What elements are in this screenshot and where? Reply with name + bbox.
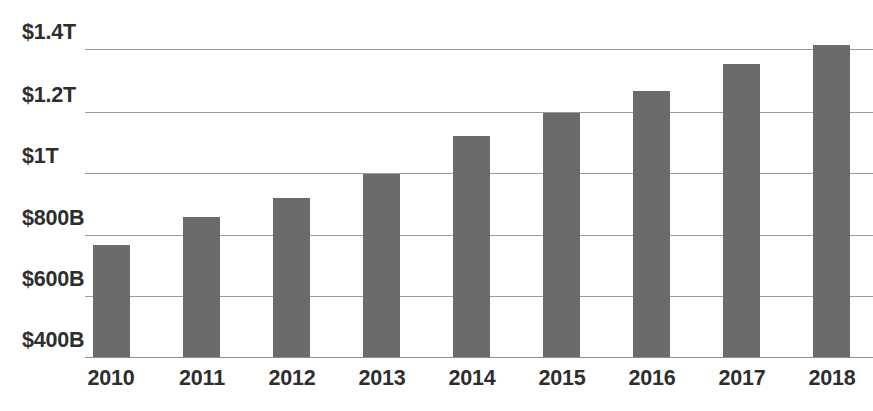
y-axis-tick-label: $400B [22, 330, 84, 352]
y-axis-tick-label: $1.4T [22, 22, 76, 44]
x-axis-tick-label: 2014 [448, 368, 495, 390]
y-axis-tick-label: $800B [22, 208, 84, 230]
bar-2011 [183, 217, 220, 357]
x-axis-tick-label: 2018 [808, 368, 855, 390]
bar-2018 [813, 45, 850, 357]
bar-2016 [633, 91, 670, 357]
x-axis-tick-label: 2011 [179, 368, 225, 390]
bar-2014 [453, 136, 490, 357]
x-axis-tick-label: 2012 [268, 368, 315, 390]
bar-2017 [723, 64, 760, 357]
gridline [85, 357, 873, 358]
bar-2012 [273, 198, 310, 357]
y-axis-tick-label: $600B [22, 269, 84, 291]
y-axis-tick-label: $1T [22, 146, 58, 168]
gridline [85, 49, 873, 50]
bar-2015 [543, 113, 580, 357]
bar-chart: $1.4T$1.2T$1T$800B$600B$400B 20102011201… [0, 0, 873, 411]
plot-area: $1.4T$1.2T$1T$800B$600B$400B 20102011201… [0, 0, 873, 411]
y-axis-tick-label: $1.2T [22, 85, 76, 107]
bar-2010 [93, 245, 130, 357]
x-axis-tick-label: 2017 [718, 368, 765, 390]
x-axis-tick-label: 2010 [87, 368, 134, 390]
x-axis-tick-label: 2016 [628, 368, 675, 390]
x-axis-tick-label: 2015 [538, 368, 585, 390]
bar-2013 [363, 174, 400, 357]
x-axis-tick-label: 2013 [358, 368, 405, 390]
